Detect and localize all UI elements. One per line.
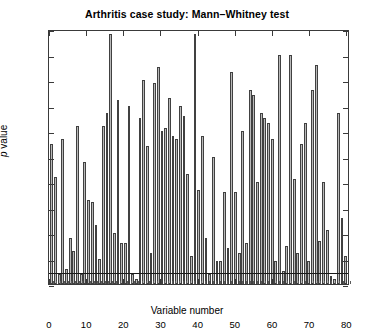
bar xyxy=(260,113,263,284)
bar xyxy=(326,230,329,284)
bar xyxy=(249,90,252,284)
bar xyxy=(69,238,72,284)
x-tick xyxy=(86,279,87,284)
bar xyxy=(102,126,105,284)
figure-container: Arthritis case study: Mann–Whitney test … xyxy=(0,0,374,328)
x-minor-tick xyxy=(146,281,147,284)
bar xyxy=(61,139,64,284)
x-tick-top xyxy=(198,31,199,36)
x-minor-tick xyxy=(343,281,344,284)
x-minor-tick xyxy=(116,281,117,284)
x-minor-tick xyxy=(134,281,135,284)
significance-reference-line xyxy=(49,273,348,274)
bar xyxy=(139,118,142,284)
x-minor-tick xyxy=(239,281,240,284)
bar xyxy=(205,238,208,284)
bar xyxy=(256,182,259,284)
x-minor-tick xyxy=(68,281,69,284)
x-minor-tick xyxy=(97,281,98,284)
bar xyxy=(106,113,109,284)
y-tick xyxy=(49,210,54,211)
bar xyxy=(120,243,123,284)
x-tick-label: 20 xyxy=(108,319,138,328)
x-minor-tick xyxy=(224,281,225,284)
x-minor-tick xyxy=(294,281,295,284)
bar xyxy=(318,241,321,284)
x-minor-tick xyxy=(268,281,269,284)
y-tick xyxy=(49,108,54,109)
bar xyxy=(161,131,164,284)
bar xyxy=(146,146,149,284)
bar xyxy=(172,136,175,284)
x-minor-tick xyxy=(227,281,228,284)
x-minor-tick xyxy=(53,281,54,284)
x-minor-tick xyxy=(90,281,91,284)
x-minor-tick xyxy=(120,281,121,284)
y-tick xyxy=(49,235,54,236)
bar xyxy=(293,179,296,284)
x-tick-top xyxy=(309,31,310,36)
y-tick xyxy=(49,184,54,185)
x-minor-tick xyxy=(186,281,187,284)
x-tick-label: 50 xyxy=(220,319,250,328)
x-minor-tick xyxy=(149,281,150,284)
bar xyxy=(168,98,171,284)
bar xyxy=(91,202,94,284)
bar xyxy=(289,55,292,285)
x-minor-tick xyxy=(172,281,173,284)
y-tick-right xyxy=(343,261,348,262)
y-tick-right xyxy=(343,159,348,160)
plot-area: 00.10.20.30.40.50.60.70.80.91 0102030405… xyxy=(48,30,349,285)
bar xyxy=(179,106,182,285)
y-axis-label: p value xyxy=(0,125,9,157)
bar xyxy=(190,256,193,284)
x-minor-tick xyxy=(175,281,176,284)
x-minor-tick xyxy=(142,281,143,284)
x-minor-tick xyxy=(335,281,336,284)
x-minor-tick xyxy=(261,281,262,284)
x-minor-tick xyxy=(112,281,113,284)
x-minor-tick xyxy=(183,281,184,284)
x-minor-tick xyxy=(331,281,332,284)
bar xyxy=(113,233,116,284)
x-tick-label: 70 xyxy=(294,319,324,328)
bar-series xyxy=(49,31,348,284)
bar xyxy=(263,118,266,284)
chart-title: Arthritis case study: Mann–Whitney test xyxy=(0,8,374,20)
bar xyxy=(194,34,197,284)
x-tick-label: 40 xyxy=(183,319,213,328)
bar xyxy=(124,243,127,284)
x-tick xyxy=(346,279,347,284)
y-tick-right xyxy=(343,57,348,58)
x-minor-tick xyxy=(246,281,247,284)
x-minor-tick xyxy=(179,281,180,284)
x-minor-tick xyxy=(56,281,57,284)
x-minor-tick xyxy=(276,281,277,284)
x-tick-top xyxy=(160,31,161,36)
bar xyxy=(72,251,75,284)
bar xyxy=(230,72,233,284)
x-minor-tick xyxy=(313,281,314,284)
x-minor-tick xyxy=(105,281,106,284)
bar xyxy=(117,100,120,284)
bar xyxy=(300,144,303,284)
bar xyxy=(142,80,145,284)
x-minor-tick xyxy=(291,281,292,284)
x-tick-top xyxy=(49,31,50,36)
x-minor-tick xyxy=(79,281,80,284)
x-minor-tick xyxy=(205,281,206,284)
x-minor-tick xyxy=(75,281,76,284)
bar xyxy=(234,192,237,284)
x-minor-tick xyxy=(328,281,329,284)
x-tick-top xyxy=(346,31,347,36)
x-minor-tick xyxy=(317,281,318,284)
y-tick-right xyxy=(343,108,348,109)
x-minor-tick xyxy=(257,281,258,284)
bar xyxy=(197,190,200,284)
x-minor-tick xyxy=(231,281,232,284)
bar xyxy=(83,162,86,284)
x-minor-tick xyxy=(283,281,284,284)
x-minor-tick xyxy=(209,281,210,284)
x-minor-tick xyxy=(153,281,154,284)
bar xyxy=(322,182,325,284)
